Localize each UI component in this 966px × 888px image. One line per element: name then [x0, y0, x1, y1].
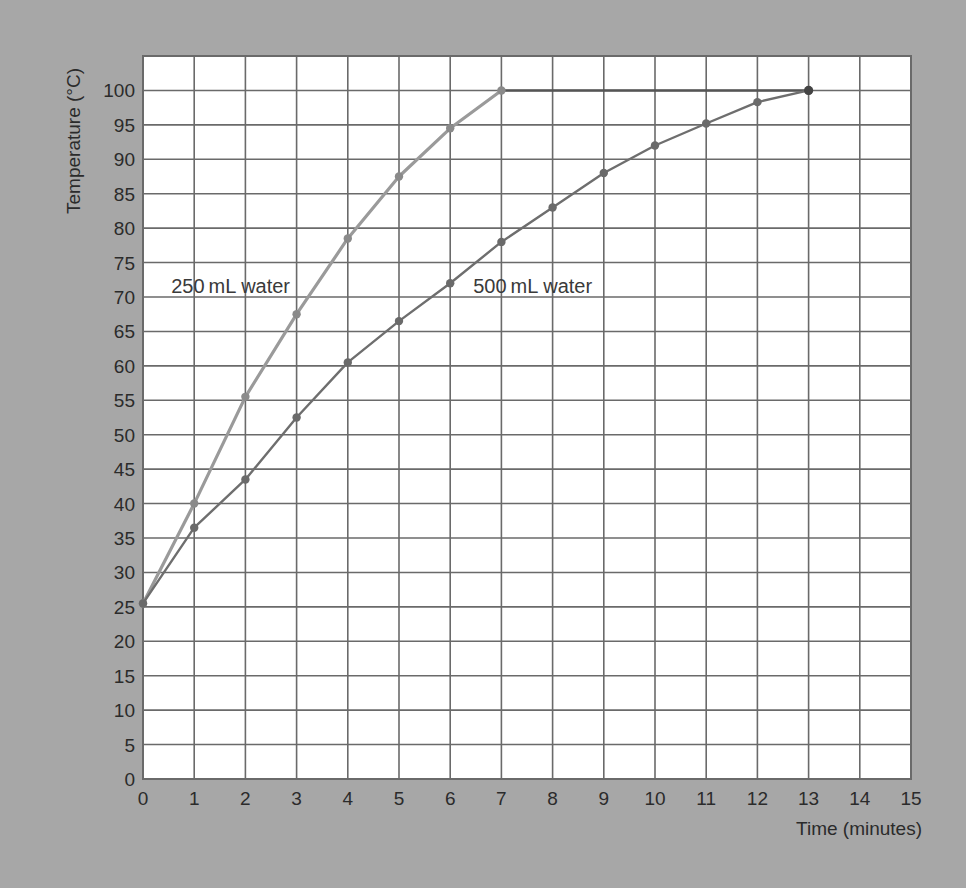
x-tick-label: 9: [599, 788, 610, 809]
y-tick-label: 0: [124, 769, 135, 790]
y-tick-label: 5: [124, 735, 135, 756]
x-tick-label: 6: [445, 788, 456, 809]
y-tick-label: 80: [114, 218, 135, 239]
data-point-marker: [446, 124, 454, 132]
y-tick-label: 70: [114, 287, 135, 308]
data-point-marker: [600, 169, 608, 177]
data-point-marker: [344, 358, 352, 366]
data-point-marker: [497, 238, 505, 246]
x-tick-label: 7: [496, 788, 507, 809]
y-tick-label: 90: [114, 149, 135, 170]
chart-figure: 0510152025303540455055606570758085909510…: [0, 0, 966, 888]
data-point-marker: [702, 119, 710, 127]
series-label: 500 mL water: [473, 275, 592, 297]
y-tick-label: 40: [114, 494, 135, 515]
y-tick-label: 55: [114, 390, 135, 411]
x-tick-label: 15: [900, 788, 921, 809]
y-tick-label: 45: [114, 459, 135, 480]
y-tick-label: 85: [114, 184, 135, 205]
data-point-marker: [548, 203, 556, 211]
y-tick-label: 15: [114, 666, 135, 687]
y-tick-label: 65: [114, 321, 135, 342]
x-tick-label: 5: [394, 788, 405, 809]
y-tick-label: 60: [114, 356, 135, 377]
data-point-marker: [292, 413, 300, 421]
data-point-marker: [190, 499, 198, 507]
data-point-marker: [344, 234, 352, 242]
series-label: 250 mL water: [171, 275, 290, 297]
x-tick-label: 1: [189, 788, 200, 809]
x-tick-label: 3: [291, 788, 302, 809]
data-point-marker: [139, 599, 147, 607]
data-point-marker: [241, 393, 249, 401]
x-tick-label: 4: [343, 788, 354, 809]
data-point-marker: [395, 317, 403, 325]
x-tick-label: 2: [240, 788, 251, 809]
x-axis-ticks: 0123456789101112131415: [138, 788, 922, 809]
y-tick-label: 50: [114, 425, 135, 446]
x-tick-label: 14: [849, 788, 871, 809]
y-axis-title: Temperature (°C): [63, 68, 84, 214]
data-point-marker: [497, 86, 505, 94]
y-tick-label: 10: [114, 700, 135, 721]
x-tick-label: 10: [644, 788, 665, 809]
x-tick-label: 8: [547, 788, 558, 809]
y-tick-label: 100: [103, 80, 135, 101]
y-tick-label: 75: [114, 253, 135, 274]
line-chart: 0510152025303540455055606570758085909510…: [0, 0, 966, 888]
x-axis-title: Time (minutes): [796, 818, 922, 839]
data-point-marker: [395, 172, 403, 180]
y-tick-label: 95: [114, 115, 135, 136]
data-point-marker: [753, 98, 761, 106]
endpoint-marker: [804, 86, 813, 95]
data-point-marker: [446, 279, 454, 287]
y-tick-label: 30: [114, 562, 135, 583]
x-tick-label: 11: [696, 788, 716, 809]
plot-area: [143, 56, 911, 779]
y-tick-label: 25: [114, 597, 135, 618]
x-tick-label: 13: [798, 788, 819, 809]
y-tick-label: 20: [114, 631, 135, 652]
x-tick-label: 12: [747, 788, 768, 809]
y-axis-ticks: 0510152025303540455055606570758085909510…: [103, 80, 135, 790]
y-tick-label: 35: [114, 528, 135, 549]
data-point-marker: [190, 523, 198, 531]
data-point-marker: [651, 141, 659, 149]
data-point-marker: [241, 475, 249, 483]
x-tick-label: 0: [138, 788, 149, 809]
data-point-marker: [292, 310, 300, 318]
